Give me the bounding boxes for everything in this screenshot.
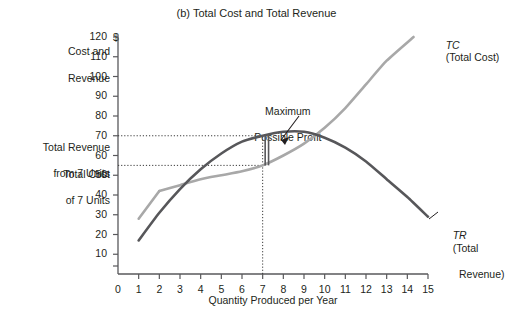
x-tick-label: 4 xyxy=(190,283,212,295)
x-tick-label: 13 xyxy=(376,283,398,295)
y-tick-label: 60 xyxy=(81,149,107,161)
y-tick-label: 80 xyxy=(81,109,107,121)
plot-area xyxy=(0,0,513,319)
tr-legend-leader xyxy=(429,212,438,219)
annotation-arrow-line xyxy=(281,116,299,140)
y-tick-label: 100 xyxy=(81,70,107,82)
y-tick-label: 120 xyxy=(81,30,107,42)
x-tick-label: 7 xyxy=(252,283,274,295)
x-tick-label: 3 xyxy=(169,283,191,295)
x-tick-label: 0 xyxy=(107,283,129,295)
y-tick-label: 70 xyxy=(81,129,107,141)
total-cost-curve-segment xyxy=(139,191,160,219)
y-tick-label: 30 xyxy=(81,208,107,220)
y-tick-label: 50 xyxy=(81,168,107,180)
x-tick-label: 5 xyxy=(210,283,232,295)
x-tick-label: 12 xyxy=(355,283,377,295)
total-cost-total-revenue-figure: (b) Total Cost and Total Revenue Cost an… xyxy=(0,0,513,319)
x-tick-label: 10 xyxy=(314,283,336,295)
x-tick-label: 11 xyxy=(334,283,356,295)
y-tick-label: 90 xyxy=(81,89,107,101)
x-tick-label: 2 xyxy=(148,283,170,295)
x-tick-label: 1 xyxy=(128,283,150,295)
y-tick-label: 110 xyxy=(81,50,107,62)
y-tick-label: 20 xyxy=(81,228,107,240)
x-tick-label: 9 xyxy=(293,283,315,295)
x-tick-label: 8 xyxy=(272,283,294,295)
y-tick-label: 40 xyxy=(81,188,107,200)
x-tick-label: 6 xyxy=(231,283,253,295)
total-revenue-curve xyxy=(139,131,428,240)
x-tick-label: 15 xyxy=(417,283,439,295)
y-tick-label: 10 xyxy=(81,247,107,259)
x-tick-label: 14 xyxy=(396,283,418,295)
